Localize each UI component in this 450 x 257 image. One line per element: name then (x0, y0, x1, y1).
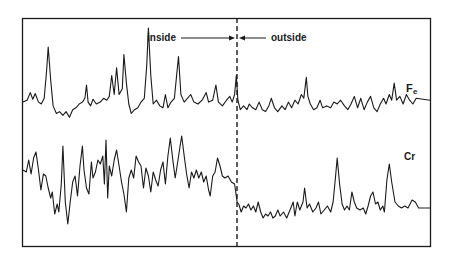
annotation-outside: outside (239, 32, 307, 43)
chart-figure: inside outside F e Cr (0, 0, 450, 257)
plot-frame (23, 19, 431, 247)
series-label-cr: Cr (404, 151, 415, 162)
arrowhead-inside-icon (229, 36, 235, 41)
fe-label-main: F (406, 82, 413, 94)
trace-fe (23, 28, 430, 117)
label-outside: outside (271, 32, 307, 43)
trace-cr (23, 136, 430, 224)
series-label-fe: F e (406, 82, 418, 96)
label-inside: inside (147, 32, 176, 43)
fe-label-sub: e (413, 87, 418, 96)
annotation-inside: inside (147, 32, 235, 43)
